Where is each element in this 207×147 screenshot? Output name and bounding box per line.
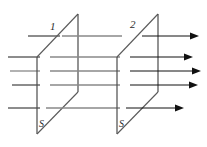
outgoing-flux-arrows [126,32,201,111]
surface-2-group [117,14,158,134]
incoming-flux-lines [8,36,60,108]
flux-arrow [130,53,193,60]
arrow-head-icon [189,81,198,88]
surface-1-label: 1 [50,20,56,32]
flux-arrow [130,81,198,88]
surface-1-group [37,14,78,134]
middle-flux-lines [46,36,122,108]
arrow-head-icon [192,67,201,74]
flux-arrow [126,104,184,111]
arrow-head-icon [184,53,193,60]
flux-diagram-figure: 1 2 S S [0,0,207,147]
flux-diagram-canvas: 1 2 S S [0,0,207,147]
flux-arrow [142,32,199,39]
arrow-head-icon [175,104,184,111]
flux-arrow [130,67,201,74]
surface-1-area-label: S [39,118,44,129]
surface-2-area-label: S [119,118,124,129]
surface-2-label: 2 [130,18,136,30]
arrow-head-icon [190,32,199,39]
